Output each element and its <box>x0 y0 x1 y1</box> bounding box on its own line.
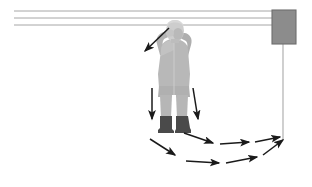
figure-container: Overhead power line contact hazard diagr… <box>0 0 312 187</box>
worker-neck <box>171 39 179 43</box>
worker-left-boot <box>158 116 174 133</box>
hazard-diagram-illustration <box>0 0 312 187</box>
worker-leg-gap <box>172 95 176 118</box>
worker-face-shadow <box>173 28 183 40</box>
background-surface <box>0 0 312 187</box>
pole-mounted-transformer-box <box>272 10 296 44</box>
worker-right-leg <box>176 95 188 118</box>
worker-left-leg <box>160 95 172 118</box>
worker-figure <box>156 20 191 133</box>
